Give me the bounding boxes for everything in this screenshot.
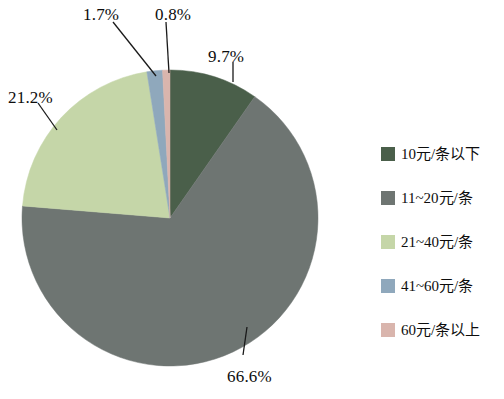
legend-swatch-icon — [381, 191, 395, 205]
slice-percentage-label: 21.2% — [8, 88, 53, 108]
legend-item[interactable]: 11~20元/条 — [381, 176, 504, 220]
legend-item-label: 10元/条以下 — [401, 147, 480, 162]
legend-item[interactable]: 10元/条以下 — [381, 132, 504, 176]
legend-swatch-icon — [381, 147, 395, 161]
pie-chart-figure: 9.7%66.6%21.2%1.7%0.8% 10元/条以下11~20元/条21… — [0, 0, 504, 399]
slice-percentage-label: 0.8% — [155, 5, 191, 25]
leader-line — [166, 22, 169, 73]
slice-percentage-label: 9.7% — [208, 47, 244, 67]
legend-item[interactable]: 60元/条以上 — [381, 308, 504, 352]
legend-item[interactable]: 41~60元/条 — [381, 264, 504, 308]
legend-item[interactable]: 21~40元/条 — [381, 220, 504, 264]
legend-swatch-icon — [381, 235, 395, 249]
chart-legend: 10元/条以下11~20元/条21~40元/条41~60元/条60元/条以上 — [381, 132, 504, 352]
legend-item-label: 21~40元/条 — [401, 235, 473, 250]
slice-percentage-label: 1.7% — [83, 5, 119, 25]
pie-slice-group — [22, 70, 318, 366]
leader-line — [113, 22, 156, 76]
legend-item-label: 60元/条以上 — [401, 323, 480, 338]
legend-item-label: 41~60元/条 — [401, 279, 473, 294]
legend-item-label: 11~20元/条 — [401, 191, 473, 206]
slice-percentage-label: 66.6% — [227, 367, 272, 387]
legend-swatch-icon — [381, 279, 395, 293]
legend-swatch-icon — [381, 323, 395, 337]
